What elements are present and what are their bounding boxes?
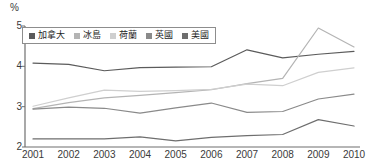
legend-label: 美國 bbox=[191, 31, 209, 40]
series-lines bbox=[33, 28, 354, 141]
series-line-0 bbox=[33, 50, 354, 71]
legend-item-2[interactable]: 荷蘭 bbox=[110, 31, 137, 40]
legend-label: 加拿大 bbox=[38, 31, 65, 40]
legend-swatch-icon bbox=[74, 33, 80, 39]
legend-item-1[interactable]: 冰島 bbox=[74, 31, 101, 40]
legend-label: 荷蘭 bbox=[119, 31, 137, 40]
legend-item-0[interactable]: 加拿大 bbox=[29, 31, 65, 40]
legend-label: 英國 bbox=[155, 31, 173, 40]
series-line-4 bbox=[33, 120, 354, 141]
legend-swatch-icon bbox=[29, 33, 35, 39]
axis-lines bbox=[25, 26, 360, 147]
legend-item-3[interactable]: 英國 bbox=[146, 31, 173, 40]
series-line-3 bbox=[33, 94, 354, 113]
line-chart: % 5432 200120022003200420052006200720082… bbox=[0, 0, 366, 166]
legend-swatch-icon bbox=[110, 33, 116, 39]
legend-label: 冰島 bbox=[83, 31, 101, 40]
legend-item-4[interactable]: 美國 bbox=[182, 31, 209, 40]
legend-swatch-icon bbox=[182, 33, 188, 39]
legend-swatch-icon bbox=[146, 33, 152, 39]
plot-area bbox=[0, 0, 366, 166]
chart-legend: 加拿大冰島荷蘭英國美國 bbox=[22, 27, 216, 44]
